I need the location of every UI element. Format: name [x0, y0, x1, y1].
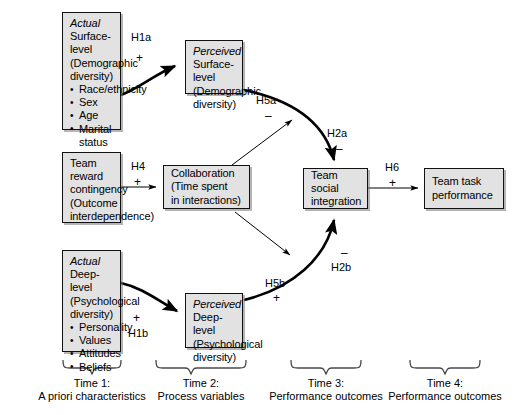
- sign-h4: +: [134, 176, 141, 188]
- bullet-item: Sex: [70, 96, 115, 109]
- node-team-reward-line3: contingency: [70, 183, 115, 196]
- node-team-social-line3: integration: [311, 195, 362, 208]
- node-team-social-line1: Team: [311, 169, 362, 182]
- sign-h1b: +: [133, 312, 140, 324]
- bullet-item: Personality: [70, 321, 115, 334]
- node-perceived-deep-emphasis: Perceived: [193, 298, 237, 311]
- node-actual-deep-emphasis: Actual: [70, 255, 115, 268]
- node-team-reward-contingency[interactable]: Team reward contingency (Outcome interde…: [62, 152, 121, 223]
- node-actual-deep-line2: (Psychological: [70, 295, 115, 308]
- node-perceived-deep-line3: diversity): [193, 351, 237, 364]
- node-actual-deep-level[interactable]: Actual Deep-level (Psychological diversi…: [62, 250, 121, 352]
- bullet-item: Marital status: [70, 123, 115, 149]
- timeline-time4-line1: Time 4:: [375, 377, 515, 390]
- label-h4: H4: [131, 160, 145, 172]
- arrow-h5b: [235, 212, 290, 255]
- timeline-label-time2: Time 2: Process variables: [141, 377, 261, 403]
- sign-h5b: +: [273, 292, 280, 304]
- bullet-item: Values: [70, 334, 115, 347]
- node-team-reward-line1: Team: [70, 157, 115, 170]
- bullet-item: Race/ethnicity: [70, 83, 115, 96]
- node-perceived-surface-level[interactable]: Perceived Surface-level (Demographic div…: [185, 40, 243, 94]
- node-team-task-performance[interactable]: Team task performance: [424, 168, 504, 209]
- node-team-social-integration[interactable]: Team social integration: [303, 168, 368, 209]
- node-perceived-deep-level[interactable]: Perceived Deep-level (Psychological dive…: [185, 293, 243, 348]
- timeline-time2-line1: Time 2:: [141, 377, 261, 390]
- sign-h2a: –: [336, 143, 343, 155]
- node-collaboration-line1: Collaboration: [171, 167, 244, 180]
- bullet-item: Age: [70, 109, 115, 122]
- node-perceived-surface-emphasis: Perceived: [193, 45, 237, 58]
- node-team-reward-line5: interdependence): [70, 210, 115, 223]
- node-team-social-line2: social: [311, 182, 362, 195]
- label-h5a: H5a: [256, 94, 276, 106]
- bullet-item: Beliefs: [70, 361, 115, 374]
- node-team-reward-line2: reward: [70, 170, 115, 183]
- node-collaboration-line2: (Time spent: [171, 180, 244, 193]
- sign-h2b: –: [341, 247, 348, 259]
- sign-h1a: +: [136, 52, 143, 64]
- timeline-label-time4: Time 4: Performance outcomes: [375, 377, 515, 403]
- arrow-h2b: [244, 220, 334, 300]
- label-h2a: H2a: [327, 127, 347, 139]
- label-h2b: H2b: [331, 261, 351, 273]
- node-actual-surface-emphasis: Actual: [70, 17, 115, 30]
- node-team-task-line2: performance: [432, 189, 498, 202]
- label-h1a: H1a: [131, 31, 151, 43]
- node-collaboration[interactable]: Collaboration (Time spent in interaction…: [163, 165, 250, 209]
- brace-time3: [291, 360, 361, 374]
- sign-h6: +: [389, 177, 396, 189]
- node-actual-surface-bullets: Race/ethnicity Sex Age Marital status: [70, 83, 115, 149]
- sign-h5a: –: [265, 110, 272, 122]
- node-actual-deep-line1: Deep-level: [70, 268, 115, 294]
- node-actual-surface-line2: (Demographic: [70, 57, 115, 70]
- timeline-time2-line2: Process variables: [141, 390, 261, 403]
- node-perceived-surface-line1: Surface-level: [193, 58, 237, 84]
- node-perceived-surface-line2: (Demographic: [193, 85, 237, 98]
- node-actual-surface-line3: diversity): [70, 70, 115, 83]
- arrow-h5a: [232, 120, 292, 165]
- timeline-time4-line2: Performance outcomes: [375, 390, 515, 403]
- brace-time4: [410, 360, 480, 374]
- label-h1b: H1b: [128, 327, 148, 339]
- label-h5b: H5b: [265, 277, 285, 289]
- node-collaboration-line3: in interactions): [171, 194, 244, 207]
- node-actual-deep-bullets: Personality Values Attitudes Beliefs: [70, 321, 115, 374]
- node-perceived-surface-line3: diversity): [193, 98, 237, 111]
- node-actual-surface-line1: Surface-level: [70, 30, 115, 56]
- node-team-task-line1: Team task: [432, 175, 498, 188]
- label-h6: H6: [385, 161, 399, 173]
- node-perceived-deep-line2: (Psychological: [193, 338, 237, 351]
- diagram-canvas: Actual Surface-level (Demographic divers…: [0, 0, 526, 415]
- node-actual-deep-line3: diversity): [70, 308, 115, 321]
- node-actual-surface-level[interactable]: Actual Surface-level (Demographic divers…: [62, 12, 121, 130]
- node-team-reward-line4: (Outcome: [70, 197, 115, 210]
- node-perceived-deep-line1: Deep-level: [193, 311, 237, 337]
- bullet-item: Attitudes: [70, 347, 115, 360]
